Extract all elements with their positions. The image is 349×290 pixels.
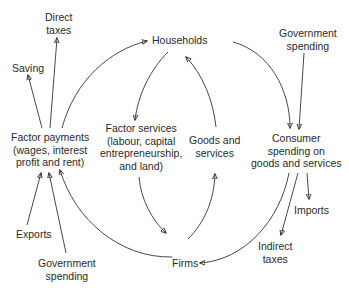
arrow-factor-to-direct-taxes: [50, 38, 57, 128]
node-households: Households: [152, 34, 207, 47]
arrow-firms-to-goods: [188, 174, 215, 239]
arrow-gov-top-to-consumer: [299, 53, 304, 129]
gov-top-line-1: Government: [279, 27, 337, 40]
indirect-taxes-line-2: taxes: [258, 253, 292, 266]
arrow-firms-to-factor-payments: [60, 170, 172, 257]
factor-payments-line-3: profit and rent): [11, 156, 89, 169]
factor-payments-line-1: Factor payments: [11, 131, 89, 144]
arrow-households-to-consumer: [233, 42, 290, 128]
consumer-line-1: Consumer: [251, 132, 341, 145]
imports-label: Imports: [294, 204, 329, 217]
indirect-taxes-line-1: Indirect: [258, 240, 292, 253]
exports-label: Exports: [16, 228, 52, 241]
factor-payments-line-2: (wages, interest: [11, 144, 89, 157]
arrow-households-to-factor-services: [135, 52, 168, 120]
node-imports: Imports: [294, 204, 329, 217]
arrow-exports-to-factor: [27, 173, 41, 225]
node-gov-spending-bottom: Government spending: [38, 257, 96, 282]
gov-bottom-line-2: spending: [38, 270, 96, 283]
factor-services-line-3: entrepreneurship,: [100, 147, 182, 160]
node-factor-payments: Factor payments (wages, interest profit …: [11, 131, 89, 169]
node-exports: Exports: [16, 228, 52, 241]
factor-services-line-2: (labour, capital: [100, 135, 182, 148]
node-gov-spending-top: Government spending: [279, 27, 337, 52]
node-direct-taxes: Direct taxes: [45, 11, 72, 36]
goods-services-line-2: services: [189, 147, 240, 160]
node-factor-services: Factor services (labour, capital entrepr…: [100, 122, 182, 172]
arrow-gov-bottom-to-factor: [49, 173, 66, 253]
arrow-factor-to-saving: [28, 75, 42, 128]
direct-taxes-line-1: Direct: [45, 11, 72, 24]
arrow-factor-services-to-firms: [139, 177, 166, 233]
saving-label: Saving: [12, 62, 44, 75]
consumer-line-3: goods and services: [251, 157, 341, 170]
node-indirect-taxes: Indirect taxes: [258, 240, 292, 265]
arrow-consumer-to-imports: [307, 173, 309, 199]
consumer-line-2: spending on: [251, 145, 341, 158]
gov-bottom-line-1: Government: [38, 257, 96, 270]
node-consumer-spending: Consumer spending on goods and services: [251, 132, 341, 170]
arrow-factor-payments-to-households: [62, 41, 147, 128]
households-label: Households: [152, 34, 207, 47]
node-saving: Saving: [12, 62, 44, 75]
firms-label: Firms: [172, 257, 198, 270]
node-firms: Firms: [172, 257, 198, 270]
factor-services-line-4: and land): [100, 160, 182, 173]
arrow-goods-to-households: [186, 57, 216, 127]
direct-taxes-line-2: taxes: [45, 24, 72, 37]
gov-top-line-2: spending: [279, 40, 337, 53]
node-goods-services: Goods and services: [189, 134, 240, 159]
factor-services-line-1: Factor services: [100, 122, 182, 135]
goods-services-line-1: Goods and: [189, 134, 240, 147]
